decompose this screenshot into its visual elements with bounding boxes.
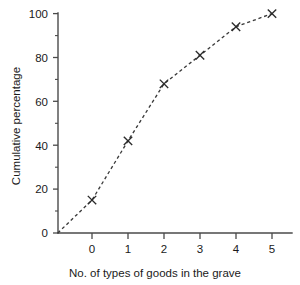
y-tick-label-100: 100 bbox=[29, 8, 48, 20]
y-tick-label-80: 80 bbox=[35, 52, 48, 64]
x-axis-title: No. of types of goods in the grave bbox=[69, 267, 241, 279]
x-tick-label-5: 5 bbox=[269, 243, 275, 255]
y-tick-label-0: 0 bbox=[42, 227, 48, 239]
x-tick-label-4: 4 bbox=[233, 243, 240, 255]
series-dashed-line bbox=[58, 14, 272, 233]
data-point-marker bbox=[124, 137, 132, 145]
y-tick-label-40: 40 bbox=[35, 140, 48, 152]
x-tick-label-0: 0 bbox=[89, 243, 95, 255]
y-axis-title: Cumulative percentage bbox=[10, 67, 22, 185]
data-point-marker bbox=[232, 23, 240, 31]
x-axis-major-ticks bbox=[92, 233, 272, 239]
chart-figure: 100 80 60 40 20 0 0 1 2 3 4 5 No. of typ… bbox=[0, 0, 300, 285]
x-tick-label-1: 1 bbox=[125, 243, 131, 255]
x-tick-label-3: 3 bbox=[197, 243, 203, 255]
cumulative-percentage-line-chart: 100 80 60 40 20 0 0 1 2 3 4 5 No. of typ… bbox=[0, 0, 300, 285]
y-tick-label-60: 60 bbox=[35, 96, 48, 108]
series-markers bbox=[88, 9, 276, 204]
y-tick-label-20: 20 bbox=[35, 183, 48, 195]
data-point-marker bbox=[196, 51, 204, 59]
x-tick-label-2: 2 bbox=[161, 243, 167, 255]
data-series-group bbox=[58, 9, 276, 233]
data-point-marker bbox=[160, 80, 168, 88]
data-point-marker bbox=[88, 196, 96, 204]
data-point-marker bbox=[268, 9, 276, 17]
